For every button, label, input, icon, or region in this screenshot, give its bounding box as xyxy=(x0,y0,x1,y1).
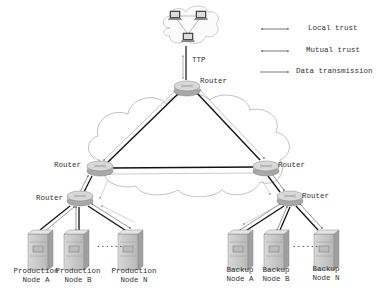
router-top-label: Router xyxy=(200,78,227,86)
core-network-cloud xyxy=(88,94,289,197)
backup-node-a-icon xyxy=(228,230,253,270)
production-node-a-line1: Production xyxy=(13,268,58,276)
backup-node-n-line1: Backup xyxy=(312,266,339,274)
legend-symbols xyxy=(260,29,288,72)
computer-icon xyxy=(181,33,195,42)
backup-node-n-line2: Node N xyxy=(312,275,339,283)
backup-node-b-line2: Node B xyxy=(262,276,289,284)
production-node-b-line1: Production xyxy=(55,268,100,276)
network-diagram xyxy=(0,0,390,294)
router-right-label: Router xyxy=(278,162,305,170)
computer-icon xyxy=(168,11,182,20)
backup-ellipsis: ...... xyxy=(292,242,319,250)
backup-node-a-line1: Backup xyxy=(226,267,253,275)
router-left-lower-label: Router xyxy=(36,195,63,203)
computer-icon xyxy=(194,11,208,20)
production-node-n-line2: Node N xyxy=(120,277,147,285)
legend-data-transmission: Data transmission xyxy=(296,68,373,76)
backup-node-a-line2: Node A xyxy=(226,276,253,284)
router-right-icon xyxy=(253,161,279,176)
router-left-icon xyxy=(87,161,113,176)
production-ellipsis: ...... xyxy=(96,242,123,250)
router-left-lower-icon xyxy=(67,191,93,206)
router-right-lower-icon xyxy=(277,191,303,206)
ttp-label: TTP xyxy=(192,57,206,65)
production-node-a-icon xyxy=(28,230,53,270)
router-left-label: Router xyxy=(54,162,81,170)
legend-mutual-trust: Mutual trust xyxy=(306,47,360,55)
ttp-cloud xyxy=(163,6,218,43)
production-node-a-line2: Node A xyxy=(22,277,49,285)
production-node-n-icon xyxy=(118,230,143,270)
router-top-icon xyxy=(174,81,200,96)
legend-local-trust: Local trust xyxy=(308,25,358,33)
backup-node-b-line1: Backup xyxy=(262,267,289,275)
production-node-b-icon xyxy=(64,230,89,270)
production-node-b-line2: Node B xyxy=(64,277,91,285)
production-node-n-line1: Production xyxy=(111,268,156,276)
router-right-lower-label: Router xyxy=(302,193,329,201)
backup-node-b-icon xyxy=(264,230,289,270)
backup-node-n-icon xyxy=(314,230,339,270)
